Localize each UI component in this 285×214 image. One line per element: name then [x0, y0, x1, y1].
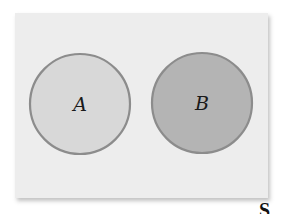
venn-diagram: A B — [0, 0, 285, 214]
sample-space-label: S — [259, 200, 270, 214]
set-a-label: A — [71, 93, 87, 115]
venn-diagram-canvas: A B S — [0, 0, 285, 214]
set-a: A — [30, 54, 130, 154]
set-b-label: B — [194, 92, 209, 114]
set-b: B — [152, 53, 252, 153]
